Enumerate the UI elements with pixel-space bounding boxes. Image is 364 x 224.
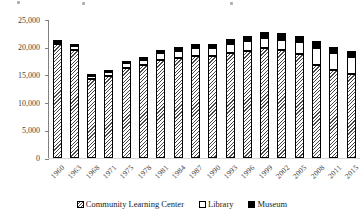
bar-segment-community-learning-center	[139, 65, 148, 158]
y-tick-mark	[45, 75, 49, 76]
y-tick-mark	[45, 48, 49, 49]
y-tick-label: 25,000	[0, 16, 40, 25]
bar-segment-community-learning-center	[226, 53, 235, 159]
bar-segment-library	[347, 57, 356, 73]
bar-segment-community-learning-center	[87, 79, 96, 158]
bar-1993	[226, 39, 235, 158]
y-tick-mark	[45, 20, 49, 21]
bar-1978	[139, 57, 148, 158]
bar-segment-community-learning-center	[104, 76, 113, 158]
bar-segment-library	[312, 48, 321, 65]
y-tick-label: 0	[0, 154, 40, 163]
bar-1987	[191, 44, 200, 158]
bar-segment-community-learning-center	[174, 58, 183, 158]
bar-segment-library	[277, 40, 286, 51]
bar-1984	[174, 47, 183, 158]
hatched-swatch-icon	[77, 201, 84, 208]
y-tick-mark	[45, 159, 49, 160]
legend-label: Library	[208, 199, 234, 209]
y-tick-mark	[45, 103, 49, 104]
legend-label: Community Learning Center	[86, 199, 184, 209]
bar-2015	[347, 51, 356, 159]
y-tick-label: 5,000	[0, 126, 40, 135]
bar-segment-community-learning-center	[329, 70, 338, 158]
legend-label: Museum	[257, 199, 287, 209]
bar-1981	[156, 50, 165, 158]
bar-segment-community-learning-center	[295, 54, 304, 159]
cropped-title-remnant	[17, 1, 20, 4]
bar-segment-community-learning-center	[260, 48, 269, 159]
bar-segment-community-learning-center	[277, 50, 286, 158]
y-tick-label: 20,000	[0, 43, 40, 52]
bar-segment-community-learning-center	[53, 44, 62, 158]
bar-segment-library	[226, 44, 235, 53]
bar-1990	[208, 44, 217, 159]
legend-item-museum: Museum	[248, 199, 287, 209]
bar-segment-library	[329, 53, 338, 70]
bar-2005	[295, 36, 304, 159]
bar-segment-community-learning-center	[191, 56, 200, 158]
legend: Community Learning Center Library Museum	[0, 199, 364, 209]
legend-item-library: Library	[199, 199, 234, 209]
bar-1975	[122, 61, 131, 159]
bar-segment-community-learning-center	[312, 65, 321, 158]
y-axis-line	[48, 20, 49, 159]
bar-segment-library	[260, 38, 269, 48]
white-swatch-icon	[199, 201, 206, 208]
bar-segment-museum	[312, 41, 321, 48]
black-swatch-icon	[248, 201, 255, 208]
bar-segment-community-learning-center	[208, 56, 217, 159]
bar-segment-museum	[347, 51, 356, 58]
bar-2011	[329, 47, 338, 159]
bar-segment-community-learning-center	[122, 68, 131, 158]
bar-segment-community-learning-center	[347, 74, 356, 159]
bar-segment-museum	[329, 47, 338, 54]
bar-1968	[87, 74, 96, 159]
bar-segment-library	[174, 51, 183, 59]
bar-segment-library	[191, 48, 200, 56]
cropped-title-remnant	[82, 2, 85, 5]
bar-1960	[53, 40, 62, 159]
bar-segment-library	[295, 42, 304, 54]
bar-segment-museum	[295, 36, 304, 43]
bar-1963	[70, 44, 79, 158]
bar-segment-library	[243, 41, 252, 51]
bar-1971	[104, 70, 113, 158]
bar-segment-community-learning-center	[70, 50, 79, 159]
cropped-title-remnant	[230, 2, 233, 5]
bar-segment-library	[208, 48, 217, 56]
bar-segment-community-learning-center	[243, 51, 252, 159]
bar-2002	[277, 33, 286, 158]
y-tick-mark	[45, 131, 49, 132]
y-tick-label: 10,000	[0, 99, 40, 108]
bar-2008	[312, 41, 321, 159]
y-tick-label: 15,000	[0, 71, 40, 80]
bar-segment-community-learning-center	[156, 60, 165, 159]
stacked-bar-chart: 05,00010,00015,00020,00025,000 196019631…	[0, 0, 364, 224]
bar-1999	[260, 32, 269, 159]
bar-1996	[243, 36, 252, 158]
legend-item-community-learning-center: Community Learning Center	[77, 199, 184, 209]
